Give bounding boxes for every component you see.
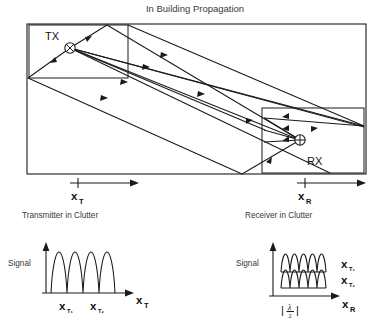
- rx-position-axis: x R: [297, 178, 366, 206]
- half-wavelength-annotation: | λ 2 |: [281, 303, 299, 319]
- ray-cross-long: [70, 48, 330, 173]
- left-plot-y-label: Signal: [8, 259, 31, 268]
- arrowhead-icon: [160, 52, 168, 58]
- figure-canvas: In Building Propagation: [0, 0, 391, 329]
- ray-direct-lower: [70, 48, 300, 140]
- tx-label: TX: [45, 30, 60, 42]
- right-plot-trace-xt2: [281, 270, 326, 288]
- arrowhead-icon: [100, 95, 108, 101]
- arrowhead-icon: [282, 136, 289, 142]
- rx-node: RX: [295, 135, 323, 167]
- arrowhead-icon: [357, 180, 366, 187]
- ray-direct-mid: [70, 48, 364, 127]
- arrowhead-icon: [282, 113, 289, 119]
- rx-axis-label-sub: R: [306, 197, 312, 206]
- left-plot-tick-label-1: x: [59, 300, 66, 312]
- right-plot-legend-sub-1: T₁: [349, 266, 355, 272]
- arrowhead-icon: [331, 293, 340, 300]
- right-caption: Receiver in Clutter: [245, 211, 313, 220]
- annotation-right-bar: |: [296, 304, 299, 316]
- right-plot-x-label: x: [342, 298, 349, 310]
- rx-axis-label: x: [298, 190, 305, 202]
- right-plot-trace-xt1: [281, 254, 326, 272]
- transmitter-in-clutter-plot: Signal x T₁ x T₂ x T: [8, 242, 149, 314]
- arrowhead-icon: [85, 36, 92, 42]
- receiver-in-clutter-plot: Signal x T₁ x T₂ | λ 2 | x R: [236, 242, 356, 319]
- annotation-denominator: 2: [289, 313, 292, 319]
- right-plot-y-label: Signal: [236, 259, 259, 268]
- right-plot-legend-label-1: x: [341, 258, 348, 270]
- right-plot-legend-sub-2: T₂: [349, 282, 355, 288]
- tx-position-axis: x T: [70, 178, 139, 206]
- left-plot-signal-trace: [51, 252, 115, 293]
- left-plot-tick-sub-2: T₂: [98, 308, 104, 314]
- figure-title: In Building Propagation: [146, 3, 244, 14]
- left-plot-x-label: x: [136, 294, 143, 306]
- right-plot-x-label-sub: R: [350, 305, 356, 314]
- ray-direct-lower2: [70, 48, 265, 130]
- arrowhead-icon: [270, 242, 277, 251]
- left-plot-tick-label-2: x: [90, 300, 97, 312]
- rx-label: RX: [307, 155, 323, 167]
- left-plot-tick-sub-1: T₁: [67, 308, 73, 314]
- in-building-propagation-figure: In Building Propagation: [0, 0, 391, 329]
- tx-axis-label: x: [71, 190, 78, 202]
- ray-leftwall-to-floor: [28, 78, 242, 174]
- ray-txbox-corner-to-right: [128, 25, 364, 126]
- arrowhead-icon: [197, 91, 205, 97]
- annotation-numerator: λ: [287, 303, 292, 312]
- left-caption: Transmitter in Clutter: [22, 211, 98, 220]
- arrowhead-icon: [130, 180, 139, 187]
- arrowhead-icon: [125, 290, 134, 297]
- ray-tx-downleft: [28, 48, 70, 78]
- ray-paths: [28, 25, 364, 174]
- left-plot-x-label-sub: T: [144, 301, 149, 310]
- arrowhead-icon: [43, 242, 50, 251]
- annotation-left-bar: |: [281, 304, 284, 316]
- arrowhead-icon: [311, 126, 318, 132]
- arrowhead-icon: [120, 79, 128, 85]
- right-plot-legend-label-2: x: [341, 274, 348, 286]
- tx-node: TX: [45, 30, 75, 53]
- tx-axis-label-sub: T: [79, 197, 84, 206]
